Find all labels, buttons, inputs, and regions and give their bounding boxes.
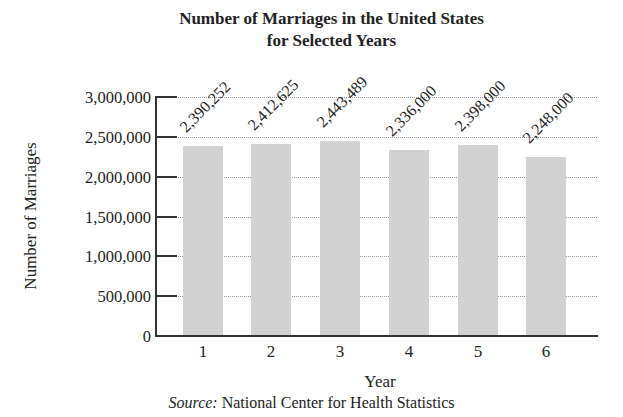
y-tick-mark xyxy=(155,335,177,337)
chart-title-line-2: for Selected Years xyxy=(40,30,623,52)
bar xyxy=(526,157,566,335)
source-note: Source: National Center for Health Stati… xyxy=(0,394,623,412)
y-tick-label: 1,000,000 xyxy=(85,247,151,267)
x-tick-label: 1 xyxy=(193,342,213,362)
y-tick-mark xyxy=(155,295,177,297)
y-tick-mark xyxy=(155,96,177,98)
bar xyxy=(251,144,291,335)
x-tick-label: 5 xyxy=(468,342,488,362)
x-axis-line xyxy=(155,335,598,337)
bar-value-label: 2,336,000 xyxy=(382,82,440,140)
y-tick-label: 0 xyxy=(143,327,151,347)
source-prefix: Source: xyxy=(169,394,218,411)
bar xyxy=(389,150,429,335)
chart-title: Number of Marriages in the United States… xyxy=(0,8,623,52)
bar xyxy=(320,141,360,335)
chart-title-line-1: Number of Marriages in the United States xyxy=(40,8,623,30)
y-tick-mark xyxy=(155,176,177,178)
y-axis-label: Number of Marriages xyxy=(21,141,41,291)
x-tick-label: 4 xyxy=(399,342,419,362)
y-tick-mark xyxy=(155,255,177,257)
y-tick-label: 2,500,000 xyxy=(85,128,151,148)
x-tick-label: 6 xyxy=(536,342,556,362)
y-tick-label: 3,000,000 xyxy=(85,88,151,108)
y-tick-mark xyxy=(155,136,177,138)
source-text: National Center for Health Statistics xyxy=(222,394,455,411)
bar-value-label: 2,443,489 xyxy=(313,73,371,131)
bar xyxy=(183,146,223,335)
y-tick-label: 1,500,000 xyxy=(85,208,151,228)
y-tick-label: 500,000 xyxy=(97,287,151,307)
bar-value-label: 2,398,000 xyxy=(451,77,509,135)
bar xyxy=(458,145,498,335)
x-axis-label: Year xyxy=(340,372,420,392)
x-tick-label: 2 xyxy=(261,342,281,362)
bar-value-label: 2,390,252 xyxy=(176,78,234,136)
y-tick-label: 2,000,000 xyxy=(85,168,151,188)
x-tick-label: 3 xyxy=(330,342,350,362)
bar-value-label: 2,412,625 xyxy=(244,76,302,134)
y-tick-mark xyxy=(155,216,177,218)
